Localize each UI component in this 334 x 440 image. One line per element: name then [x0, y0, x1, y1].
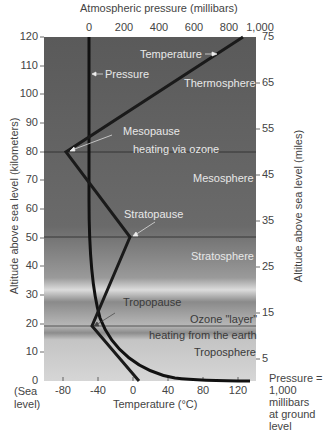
troposphere-label: Troposphere	[194, 346, 256, 358]
thermosphere-label: Thermosphere	[184, 77, 256, 89]
top-tick: 400	[139, 21, 179, 33]
ozone-layer-label: Ozone "layer"	[190, 313, 257, 325]
bottom-tick: 80	[185, 384, 221, 396]
left-tick: 90	[12, 116, 38, 128]
top-tick: 200	[104, 21, 144, 33]
tropopause-label: Tropopause	[123, 296, 181, 308]
pressure-note: Pressure = 1,000 millibars at ground lev…	[269, 372, 323, 432]
left-tick: 30	[12, 288, 38, 300]
left-ticks	[40, 37, 44, 352]
stratopause-label: Stratopause	[124, 208, 183, 220]
top-axis-title: Atmospheric pressure (millibars)	[80, 2, 238, 14]
top-tick: 0	[69, 21, 109, 33]
right-axis-title: Altitude above sea level (miles)	[292, 108, 304, 304]
right-tick: 45	[262, 168, 274, 180]
right-tick: 25	[262, 260, 274, 272]
bottom-tick: 0	[115, 384, 151, 396]
top-tick: 1,000	[240, 21, 280, 33]
bottom-axis-title: Temperature (°C)	[113, 398, 197, 410]
left-tick: 100	[12, 87, 38, 99]
left-tick: 20	[12, 317, 38, 329]
left-tick: 70	[12, 173, 38, 185]
left-tick: 120	[12, 30, 38, 42]
top-tick: 600	[174, 21, 214, 33]
right-tick: 5	[262, 352, 268, 364]
pressure-annotation: Pressure	[105, 68, 149, 80]
left-tick: 80	[12, 145, 38, 157]
mesopause-label: Mesopause	[123, 125, 180, 137]
right-tick: 15	[262, 306, 274, 318]
left-tick: 110	[12, 59, 38, 71]
bottom-tick: 120	[220, 384, 256, 396]
heating-ozone-label: heating via ozone	[133, 143, 219, 155]
left-tick: 10	[12, 345, 38, 357]
right-tick: 35	[262, 214, 274, 226]
left-tick: 40	[12, 259, 38, 271]
bottom-tick: -40	[80, 384, 116, 396]
stratosphere-label: Stratosphere	[191, 250, 254, 262]
mesosphere-label: Mesosphere	[193, 172, 254, 184]
temperature-annotation: Temperature	[140, 48, 202, 60]
right-tick: 65	[262, 76, 274, 88]
bottom-tick: -80	[45, 384, 81, 396]
sea-level-label-1: (Sea	[14, 385, 37, 397]
left-tick: 50	[12, 231, 38, 243]
bottom-tick: 40	[150, 384, 186, 396]
right-tick: 55	[262, 122, 274, 134]
sea-level-label-2: level)	[14, 398, 40, 410]
left-tick: 60	[12, 202, 38, 214]
heating-earth-label: heating from the earth	[149, 329, 257, 341]
